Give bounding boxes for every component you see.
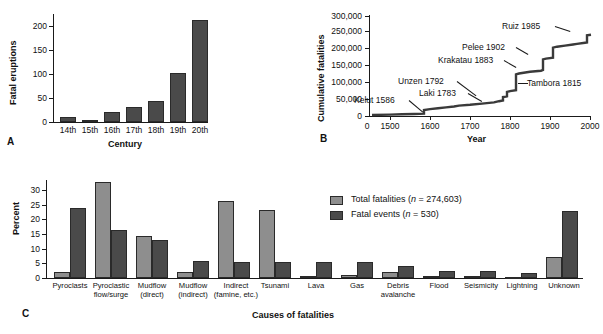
panel-c-x-axis-title: Causes of fatalities (252, 310, 334, 320)
panel-a-ytick (49, 122, 53, 123)
panel-a-ytick-label: 50 (19, 94, 47, 103)
legend-text-value: = 530) (411, 209, 439, 219)
panel-b-ytick-label: 250,000 (315, 27, 362, 36)
panel-b-leader-kelut (409, 100, 423, 112)
panel-c-bar-total-mudflow-indirect (177, 272, 193, 278)
panel-b-x-axis-title: Year (467, 134, 486, 144)
panel-c-bar-total-tsunami (259, 210, 275, 278)
panel-b-leader-pelee (516, 47, 529, 55)
legend-label-fatal-events: Fatal events (n = 530) (351, 210, 439, 219)
legend-text-value: = 274,603) (416, 194, 462, 204)
panel-b-xtick-label: 0 (358, 122, 376, 131)
panel-b-annotation-ruiz: Ruiz 1985 (502, 22, 540, 31)
panel-c-bar-events-seismicity (480, 271, 496, 278)
panel-a-ytick-label: 100 (14, 70, 47, 79)
panel-c-ytick (42, 234, 46, 235)
panel-b-ytick-label: 300,000 (315, 12, 362, 21)
panel-c-ytick-label: 20 (18, 215, 40, 224)
panel-a-ytick-label: 150 (14, 46, 47, 55)
panel-c-bar-total-lightning (505, 277, 521, 279)
panel-c-bar-total-gas (341, 275, 357, 278)
panel-b-leader-ruiz (555, 26, 571, 32)
panel-a-bar-20th (192, 20, 208, 122)
panel-b-letter: B (320, 133, 327, 144)
panel-b-annotation-pelee: Pelee 1902 (462, 43, 505, 52)
panel-b-leader-krakatau (504, 60, 517, 68)
panel-b-annotation-unzen: Unzen 1792 (398, 77, 444, 86)
panel-c-ytick (42, 278, 46, 279)
panel-b-xtick-label: 1700 (457, 122, 483, 131)
panel-b-xtick (510, 116, 511, 120)
panel-c-bar-events-tsunami (275, 262, 291, 278)
panel-c-x-axis (46, 278, 583, 279)
panel-c-bar-total-debris-avalanche (382, 272, 398, 278)
panel-c-bar-events-lava (316, 262, 332, 278)
panel-c-ytick-label: 30 (18, 186, 40, 195)
panel-b-ytick-label: 100,000 (315, 78, 362, 87)
panel-a-bar-19th (170, 73, 186, 122)
panel-c-bar-total-flood (423, 276, 439, 278)
panel-c-ytick-label: 5 (18, 259, 40, 268)
panel-c-bar-events-unknown (562, 211, 578, 278)
panel-b-ytick (365, 48, 369, 49)
panel-a-x-axis (53, 122, 208, 123)
panel-b-annotation-kelut: Kelut 1586 (354, 96, 395, 105)
panel-a-letter: A (7, 136, 14, 147)
legend-swatch-fatal-events (330, 211, 343, 220)
panel-c-bar-events-flood (439, 271, 455, 278)
panel-a-bar-14th (60, 117, 76, 122)
panel-a-bar-17th (126, 107, 142, 122)
panel-c-ytick (42, 190, 46, 191)
legend-swatch-total-fatalities (330, 196, 343, 205)
panel-b-ytick (365, 16, 369, 17)
panel-b-xtick (390, 116, 391, 120)
panel-c-bar-total-pyroclastic-flow (95, 182, 111, 278)
legend-text-prefix: Total fatalities ( (351, 194, 411, 204)
panel-c-bar-events-gas (357, 262, 373, 278)
panel-c-bar-total-mudflow-direct (136, 236, 152, 278)
panel-a-ytick-label: 200 (14, 22, 47, 31)
panel-c-bar-events-mudflow-indirect (193, 261, 209, 278)
panel-b-ytick (365, 116, 369, 117)
panel-c-category-line: avalanche (373, 291, 423, 300)
panel-b-xtick-label: 1500 (377, 122, 403, 131)
panel-a-ytick-label: 0 (19, 118, 47, 127)
panel-c-bar-events-debris-avalanche (398, 266, 414, 278)
panel-c-bar-events-mudflow-direct (152, 240, 168, 278)
panel-c-bar-total-indirect (218, 201, 234, 278)
panel-b-xtick (550, 116, 551, 120)
panel-b-ytick (365, 65, 369, 66)
panel-a-xtick-label: 20th (187, 126, 213, 135)
panel-c-ytick-label: 25 (18, 201, 40, 210)
panel-b-annotation-tambora: Tambora 1815 (527, 79, 581, 88)
panel-b-ytick-label: 0 (315, 112, 362, 121)
panel-b-ytick-label: 200,000 (315, 44, 362, 53)
panel-c-bar-total-seismicity (464, 276, 480, 278)
panel-c-bar-events-pyroclasts (70, 208, 86, 278)
panel-b-xtick (470, 116, 471, 120)
panel-c-category-line: Unknown (538, 282, 590, 291)
panel-c-y-axis (46, 180, 47, 278)
panel-c-bar-events-indirect (234, 262, 250, 278)
panel-c-bar-total-lava (300, 276, 316, 278)
panel-b-annotation-krakatau: Krakatau 1883 (438, 56, 493, 65)
panel-c-category-label: Unknown (538, 282, 590, 291)
panel-a-ytick (49, 74, 53, 75)
panel-b-xtick-label: 1600 (417, 122, 443, 131)
panel-c-ytick (42, 249, 46, 250)
panel-c-bar-total-pyroclasts (54, 272, 70, 278)
panel-c-bar-events-pyroclastic-flow (111, 230, 127, 278)
panel-a-ytick (49, 26, 53, 27)
panel-a-fatal-eruptions: Fatal eruptions 0 50 100 150 200 14th 15… (0, 0, 215, 150)
panel-b-xtick-label: 1900 (537, 122, 563, 131)
panel-b-cumulative-fatalities: Cumulative fatalities 0 50,000 100,000 1… (215, 0, 593, 150)
panel-c-causes-of-fatalities: Percent 0 5 10 15 20 25 30 (0, 150, 593, 334)
panel-c-bar-total-unknown (546, 257, 562, 278)
panel-a-bar-15th (82, 120, 98, 122)
panel-a-ytick (49, 98, 53, 99)
panel-a-ytick (49, 50, 53, 51)
panel-c-ytick (42, 263, 46, 264)
panel-a-y-axis (53, 14, 54, 122)
panel-b-leader-unzen (457, 81, 477, 96)
